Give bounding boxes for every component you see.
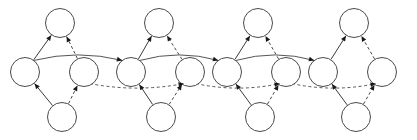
graph-node-m2[interactable]	[117, 58, 146, 87]
arrowhead-m5-to-t2	[265, 36, 270, 42]
graph-node-b1[interactable]	[147, 103, 176, 132]
graph-svg	[0, 0, 417, 140]
diagram-canvas	[0, 0, 417, 140]
graph-node-b0[interactable]	[48, 103, 77, 132]
graph-node-t3[interactable]	[340, 9, 369, 38]
graph-node-t1[interactable]	[145, 9, 174, 38]
graph-node-m0[interactable]	[11, 58, 40, 87]
arrowhead-b2-to-m4	[236, 84, 241, 90]
node-layer	[11, 9, 397, 132]
graph-node-m7[interactable]	[368, 58, 397, 87]
graph-node-b2[interactable]	[246, 103, 275, 132]
graph-node-t2[interactable]	[244, 9, 273, 38]
edge-m2-to-m4	[140, 55, 218, 61]
arrowhead-m3-to-t1	[167, 36, 172, 42]
graph-node-t0[interactable]	[46, 9, 75, 38]
arrowhead-m7-to-t3	[361, 36, 366, 42]
arrowhead-m0-to-t0	[46, 35, 51, 41]
graph-node-m5[interactable]	[272, 58, 301, 87]
arrowhead-m4-to-t2	[245, 36, 250, 42]
graph-node-m3[interactable]	[176, 58, 205, 87]
arrowhead-b1-to-m2	[139, 84, 144, 90]
arrowhead-m6-to-t3	[341, 36, 346, 42]
graph-node-m4[interactable]	[213, 58, 242, 87]
graph-node-b3[interactable]	[342, 103, 371, 132]
graph-node-m6[interactable]	[309, 58, 338, 87]
edge-m4-to-m6	[236, 55, 314, 61]
arrowhead-b3-to-m6	[332, 84, 337, 90]
graph-node-m1[interactable]	[70, 58, 99, 87]
arrowhead-b0-to-m1	[73, 85, 78, 91]
